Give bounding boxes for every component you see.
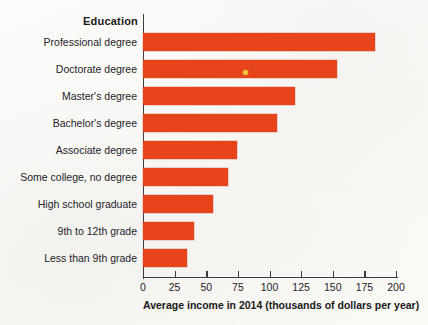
x-axis-tick-mark	[175, 271, 176, 278]
x-axis-tick-label: 0	[140, 281, 146, 293]
scan-speck-icon	[243, 70, 248, 75]
bar-category-label: High school graduate	[38, 198, 137, 210]
x-axis-tick-mark	[206, 271, 207, 278]
plot-area: Professional degreeDoctorate degreeMaste…	[143, 30, 396, 273]
x-axis-tick-mark	[364, 271, 365, 278]
x-axis-tick-mark	[143, 271, 144, 278]
bar	[143, 222, 194, 240]
bar	[143, 87, 295, 105]
bar-category-label: Associate degree	[56, 144, 137, 156]
x-axis-tick-label: 75	[232, 281, 244, 293]
bar-category-label: Less than 9th grade	[44, 252, 137, 264]
x-axis-tick-label: 25	[169, 281, 181, 293]
bar	[143, 33, 375, 51]
bar-category-label: Professional degree	[44, 36, 137, 48]
bar	[143, 114, 277, 132]
x-axis-tick-label: 200	[387, 281, 405, 293]
x-axis-tick-mark	[396, 271, 397, 278]
bar	[143, 60, 337, 78]
bar-category-label: Bachelor's degree	[53, 117, 137, 129]
bar	[143, 168, 228, 186]
x-axis-tick-mark	[333, 271, 334, 278]
category-axis-header: Education	[0, 15, 138, 27]
bar-category-label: Master's degree	[62, 90, 137, 102]
bar-category-label: Doctorate degree	[56, 63, 137, 75]
bar	[143, 195, 213, 213]
bar	[143, 249, 187, 267]
bar-category-label: Some college, no degree	[20, 171, 137, 183]
x-axis-tick-mark	[301, 271, 302, 278]
x-axis-tick-label: 150	[324, 281, 342, 293]
x-axis-tick-label: 175	[356, 281, 374, 293]
x-axis-tick-label: 100	[261, 281, 279, 293]
bar-category-label: 9th to 12th grade	[58, 225, 137, 237]
x-axis-title: Average income in 2014 (thousands of dol…	[143, 299, 398, 311]
bar-chart-figure: Education Professional degreeDoctorate d…	[0, 0, 428, 325]
x-axis-tick-label: 50	[200, 281, 212, 293]
x-axis-tick-mark	[238, 271, 239, 278]
x-axis-tick-label: 125	[292, 281, 310, 293]
bar	[143, 141, 237, 159]
x-axis-tick-mark	[270, 271, 271, 278]
